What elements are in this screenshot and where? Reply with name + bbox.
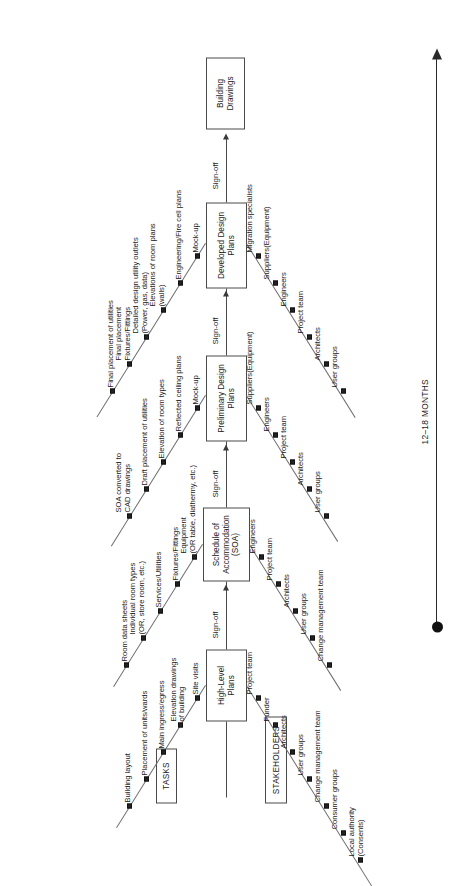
stakeholder-node — [290, 459, 295, 464]
stage-box-high-level-plans[interactable]: High-Level Plans — [206, 649, 247, 721]
stakeholder-node — [324, 513, 329, 518]
signoff-label-1: Sign-off — [211, 611, 220, 638]
stakeholder-node — [290, 307, 295, 312]
task-label: Services/Utilities — [155, 551, 164, 607]
task-label: Site visits — [192, 662, 201, 694]
task-node — [178, 432, 183, 437]
tasks-caption-label: TASKS — [162, 762, 171, 789]
timeline-arrow-line — [436, 57, 437, 627]
stakeholder-node — [307, 334, 312, 339]
signoff-arrow-3 — [223, 290, 229, 296]
signoff-arrow-1 — [223, 584, 229, 590]
stakeholder-label: User groups — [300, 593, 309, 634]
stakeholder-branch-line-2 — [246, 395, 338, 541]
stakeholder-label: Suppliers(Equipment) — [246, 331, 255, 404]
task-label: Engineering/Fire cell plans — [175, 190, 184, 280]
stakeholder-label: Change management team — [314, 710, 323, 802]
stakeholder-node — [256, 253, 261, 258]
stakeholder-node — [256, 405, 261, 410]
stakeholder-label: Local authority (Consents) — [348, 807, 365, 856]
signoff-label-3: Sign-off — [211, 317, 220, 344]
stakeholder-node — [256, 695, 261, 700]
task-node — [144, 486, 149, 491]
stakeholder-label: Project team — [280, 415, 289, 458]
stakeholder-label: User groups — [331, 346, 340, 387]
task-label: Elevations of room plans (walls) — [149, 223, 166, 306]
stakeholder-node — [307, 486, 312, 491]
task-node — [195, 695, 200, 700]
timeline-start-dot — [432, 621, 443, 632]
task-label: Elevation drawings of building — [170, 657, 187, 721]
timeline-duration-label: 12–18 MONTHS — [420, 378, 430, 444]
task-node — [161, 307, 166, 312]
stakeholder-node — [273, 432, 278, 437]
stakeholder-node — [290, 749, 295, 754]
timeline-arrow-head — [432, 48, 442, 59]
stakeholder-label: Suppliers(Equipment) — [263, 206, 272, 279]
stakeholder-label: Project team — [246, 651, 255, 694]
stage-box-preliminary-design-plans[interactable]: Preliminary Design Plans — [206, 355, 247, 441]
stakeholder-label: Architects — [297, 452, 306, 485]
stage-box-label: Preliminary Design Plans — [217, 364, 237, 433]
task-label: Room data sheets — [121, 599, 130, 661]
stakeholder-node — [341, 388, 346, 393]
signoff-connector-3 — [226, 294, 227, 354]
stage-box-building-drawings[interactable]: Building Drawings — [206, 57, 245, 129]
task-node — [127, 513, 132, 518]
task-label: Main ingress/egress — [158, 680, 167, 748]
task-node — [124, 662, 129, 667]
stakeholder-label: Architects — [314, 327, 323, 360]
signoff-label-2: Sign-off — [211, 470, 220, 497]
stage-box-developed-design-plans[interactable]: Developed Design Plans — [206, 202, 247, 288]
task-label: Individual room types (OR, store room, e… — [129, 561, 146, 634]
signoff-label-4: Sign-off — [211, 162, 220, 189]
task-label: Mock-up — [192, 223, 201, 252]
task-node — [141, 635, 146, 640]
stakeholder-node — [324, 803, 329, 808]
stakeholder-label: Engineers — [249, 519, 258, 553]
task-node — [195, 405, 200, 410]
stakeholder-label: Funder — [263, 697, 272, 721]
stakeholder-label: User groups — [297, 734, 306, 775]
task-node — [175, 581, 180, 586]
signoff-connector-2 — [226, 448, 227, 506]
task-node — [127, 361, 132, 366]
task-label: Draft placement of utilities — [141, 398, 150, 485]
task-label: Fixtures/Fittings — [172, 526, 181, 580]
stakeholder-label: Architects — [280, 715, 289, 748]
stakeholder-label: Project team — [297, 290, 306, 333]
task-node — [178, 722, 183, 727]
stakeholder-label: Change management team — [317, 569, 326, 661]
signoff-arrow-4 — [223, 133, 229, 139]
stakeholder-node — [273, 722, 278, 727]
stakeholder-node — [293, 608, 298, 613]
task-label: Final placement of utilities — [107, 300, 116, 387]
task-node — [144, 334, 149, 339]
stakeholder-node — [341, 830, 346, 835]
task-node — [110, 388, 115, 393]
stage-box-label: High-Level Plans — [217, 665, 237, 704]
stakeholder-node — [259, 554, 264, 559]
signoff-connector-4 — [226, 137, 227, 201]
stakeholder-label: Engineers — [263, 397, 272, 431]
task-label: Reflected ceiling plans — [175, 355, 184, 431]
stakeholder-node — [276, 581, 281, 586]
task-node — [127, 803, 132, 808]
task-node — [192, 554, 197, 559]
stakeholder-node — [273, 280, 278, 285]
task-node — [195, 253, 200, 258]
stakeholder-node — [327, 662, 332, 667]
task-label: Building layout — [124, 753, 133, 802]
stakeholder-branch-line-1 — [249, 544, 341, 690]
task-label: Placement of units/wards — [141, 690, 150, 775]
task-label: Final placement Fixtures/Fittings — [115, 306, 132, 360]
stage-box-label: Schedule of Accommodation (SOA) — [212, 515, 242, 574]
stage-box-schedule-of-accommodation[interactable]: Schedule of Accommodation (SOA) — [203, 507, 250, 581]
signoff-arrow-2 — [223, 444, 229, 450]
stage-box-label: Building Drawings — [216, 76, 236, 110]
stakeholder-label: Project team — [266, 537, 275, 580]
stakeholder-node — [358, 857, 363, 862]
task-node — [161, 459, 166, 464]
task-label: Mock-up — [192, 375, 201, 404]
stakeholder-node — [307, 776, 312, 781]
